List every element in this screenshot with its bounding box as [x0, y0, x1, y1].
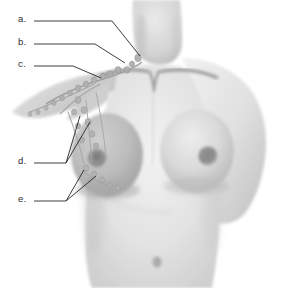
right-nipple: [93, 153, 100, 160]
label-a-text: a.: [18, 13, 26, 24]
label-d: d.: [18, 156, 26, 166]
label-e-text: e.: [18, 193, 26, 204]
label-d-text: d.: [18, 155, 26, 166]
label-b: b.: [18, 37, 26, 47]
left-nipple: [204, 151, 212, 159]
label-c-text: c.: [18, 58, 26, 69]
neck-shadow-left: [136, 14, 146, 58]
label-a: a.: [18, 14, 26, 24]
label-c: c.: [18, 59, 26, 69]
left-breast-under-shadow: [164, 177, 230, 195]
breast-lymphatics-diagram: [0, 0, 285, 288]
navel: [153, 257, 162, 268]
neck-shadow-right: [172, 14, 180, 54]
label-b-text: b.: [18, 36, 26, 47]
label-e: e.: [18, 194, 26, 204]
